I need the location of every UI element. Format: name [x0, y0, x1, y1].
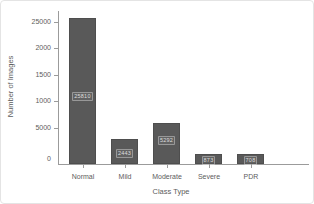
- y-tick-label: 25000: [19, 18, 51, 26]
- bar-value-mild: 2443: [112, 149, 137, 158]
- y-tick-label: 2000: [19, 44, 51, 52]
- bar-severe: 873: [195, 154, 222, 164]
- bar-mild: 2443: [111, 139, 138, 164]
- y-tick-mark: [54, 75, 58, 76]
- y-tick-label: 1500: [19, 71, 51, 79]
- y-tick-mark: [54, 48, 58, 49]
- x-tick-mark: [209, 164, 210, 168]
- x-tick-mark: [167, 164, 168, 168]
- bar-moderate: 5292: [153, 123, 180, 164]
- bar-pdr: 708: [237, 154, 264, 164]
- y-tick-mark: [54, 22, 58, 23]
- x-tick-mark: [125, 164, 126, 168]
- y-tick-label: 0: [19, 155, 51, 163]
- bar-chart: Number of Images Class Type 25000 2000 1…: [0, 0, 314, 204]
- bar-value-normal: 25810: [70, 92, 95, 101]
- bar-value-moderate: 5292: [154, 136, 179, 145]
- y-tick-label: 1000: [19, 97, 51, 105]
- y-tick-mark: [54, 101, 58, 102]
- bar-normal: 25810: [69, 18, 96, 164]
- x-axis-line: [58, 164, 309, 165]
- y-axis-title: Number of Images: [6, 31, 17, 143]
- y-axis-line: [58, 11, 59, 164]
- x-category-label-pdr: PDR: [226, 173, 276, 180]
- x-tick-mark: [251, 164, 252, 168]
- x-tick-mark: [83, 164, 84, 168]
- x-axis-title: Class Type: [121, 187, 221, 196]
- y-tick-mark: [54, 128, 58, 129]
- y-tick-label: 5000: [19, 124, 51, 132]
